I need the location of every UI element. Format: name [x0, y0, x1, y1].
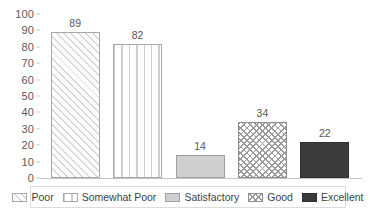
y-tick-mark [36, 63, 40, 64]
legend-swatch-icon [165, 193, 180, 202]
y-axis: 1009080706050403020100 [0, 14, 40, 178]
bar-good[interactable] [238, 122, 287, 178]
bar-group: 14 [176, 14, 225, 178]
legend-swatch-icon [248, 193, 263, 202]
legend-swatch-icon [302, 193, 317, 202]
bar-value-label: 14 [194, 140, 206, 152]
legend-swatch-icon [63, 193, 78, 202]
y-tick-mark [36, 145, 40, 146]
legend-label: Good [267, 192, 293, 203]
bar-somewhat-poor[interactable] [113, 44, 162, 178]
y-tick-mark [36, 161, 40, 162]
y-tick-label: 0 [28, 172, 34, 184]
y-tick-label: 30 [22, 123, 34, 135]
bar-poor[interactable] [51, 32, 100, 178]
legend-item-poor[interactable]: Poor [12, 192, 53, 203]
bar-group: 82 [113, 14, 162, 178]
chart-legend: PoorSomewhat PoorSatisfactoryGoodExcelle… [30, 186, 346, 208]
bar-group: 89 [51, 14, 100, 178]
y-tick-mark [36, 79, 40, 80]
bar-chart: 1009080706050403020100 8982143422 PoorSo… [0, 0, 370, 216]
y-tick-label: 10 [22, 156, 34, 168]
y-tick-mark [36, 128, 40, 129]
y-tick-mark [36, 30, 40, 31]
y-tick-label: 100 [15, 8, 34, 20]
bar-value-label: 82 [132, 29, 144, 41]
plot-area: 8982143422 [44, 14, 356, 178]
y-tick-label: 70 [22, 57, 34, 69]
y-tick-label: 50 [22, 90, 34, 102]
category-axis-line [40, 178, 362, 179]
legend-label: Excellent [321, 192, 364, 203]
bar-value-label: 34 [257, 107, 269, 119]
bar-value-label: 22 [319, 127, 331, 139]
legend-label: Poor [31, 192, 53, 203]
legend-label: Satisfactory [184, 192, 239, 203]
y-tick-label: 90 [22, 24, 34, 36]
legend-item-excellent[interactable]: Excellent [302, 192, 364, 203]
bar-group: 22 [300, 14, 349, 178]
y-tick-label: 60 [22, 74, 34, 86]
bar-excellent[interactable] [300, 142, 349, 178]
bar-value-label: 89 [69, 17, 81, 29]
y-tick-mark [36, 112, 40, 113]
y-tick-label: 40 [22, 106, 34, 118]
y-tick-mark [36, 46, 40, 47]
legend-item-satisfactory[interactable]: Satisfactory [165, 192, 239, 203]
legend-swatch-icon [12, 193, 27, 202]
y-tick-mark [36, 96, 40, 97]
y-tick-label: 20 [22, 139, 34, 151]
y-tick-label: 80 [22, 41, 34, 53]
legend-item-good[interactable]: Good [248, 192, 293, 203]
bar-group: 34 [238, 14, 287, 178]
legend-label: Somewhat Poor [82, 192, 157, 203]
bar-satisfactory[interactable] [176, 155, 225, 178]
legend-item-somewhat-poor[interactable]: Somewhat Poor [63, 192, 157, 203]
y-tick-mark [36, 14, 40, 15]
